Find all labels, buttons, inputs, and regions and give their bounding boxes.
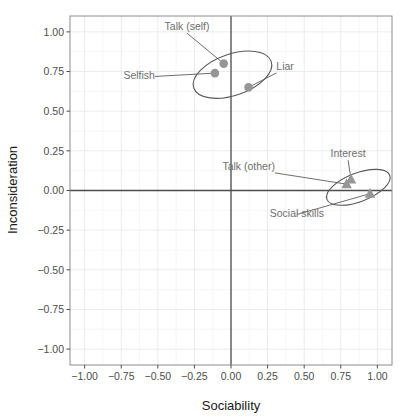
data-point-label: Liar	[276, 60, 294, 72]
x-tick-label: 0.00	[221, 370, 242, 382]
x-tick-label: 0.50	[294, 370, 315, 382]
data-point-circle	[244, 83, 253, 92]
data-point-circle	[211, 69, 220, 78]
data-point-label: Interest	[331, 147, 366, 159]
data-point-label: Talk (self)	[165, 20, 210, 32]
y-tick-label: 1.00	[44, 26, 65, 38]
data-point-label: Selfish	[123, 69, 155, 81]
y-tick-label: 0.00	[44, 184, 65, 196]
y-tick-label: −0.75	[37, 303, 64, 315]
y-tick-label: −1.00	[37, 343, 64, 355]
y-tick-label: 0.50	[44, 105, 65, 117]
x-tick-label: −1.00	[71, 370, 98, 382]
y-tick-label: 0.25	[44, 145, 65, 157]
data-point-label: Social skills	[270, 207, 324, 219]
y-tick-label: 0.75	[44, 65, 65, 77]
data-point-circle	[219, 59, 228, 68]
x-tick-label: 0.25	[257, 370, 278, 382]
x-tick-label: 1.00	[367, 370, 388, 382]
plot-canvas: Talk (self)SelfishLiarInterestTalk (othe…	[0, 0, 410, 420]
data-point-label: Talk (other)	[222, 160, 275, 172]
x-tick-label: −0.75	[108, 370, 135, 382]
y-axis-title: Inconsideration	[5, 146, 20, 234]
x-tick-label: −0.25	[181, 370, 208, 382]
scatter-plot-figure: Talk (self)SelfishLiarInterestTalk (othe…	[0, 0, 410, 420]
x-axis-title: Sociability	[202, 398, 261, 413]
y-tick-label: −0.25	[37, 224, 64, 236]
x-tick-label: −0.50	[145, 370, 172, 382]
y-tick-label: −0.50	[37, 264, 64, 276]
x-tick-label: 0.75	[331, 370, 352, 382]
